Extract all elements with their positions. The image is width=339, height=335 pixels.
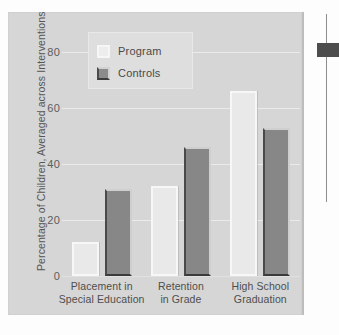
legend-item-controls: Controls (97, 62, 184, 84)
bar-program-0 (72, 242, 99, 276)
bar-controls-1 (184, 147, 211, 276)
category-label-line: High School (213, 280, 308, 293)
legend-item-program: Program (97, 40, 184, 62)
gridline-60 (62, 108, 300, 109)
legend-label-program: Program (118, 45, 162, 57)
x-axis-category-labels: Placement inSpecial EducationRetentionin… (62, 280, 300, 314)
panel-edge-shadow (302, 12, 304, 315)
legend-swatch-controls-icon (97, 67, 110, 80)
category-label-line: Graduation (213, 293, 308, 306)
margin-marker-icon (317, 43, 339, 57)
legend-swatch-program-icon (97, 45, 110, 58)
chart-panel: Percentage of Children, Averaged across … (8, 12, 302, 315)
chart-legend: Program Controls (88, 32, 193, 89)
category-label-2: High SchoolGraduation (213, 280, 308, 306)
bar-program-2 (230, 91, 257, 276)
gridline-0 (62, 276, 300, 277)
chart-panel-inner: Percentage of Children, Averaged across … (8, 12, 302, 315)
bar-program-1 (151, 186, 178, 276)
bar-controls-2 (263, 128, 290, 276)
chart-page: Percentage of Children, Averaged across … (0, 0, 339, 335)
legend-label-controls: Controls (118, 67, 161, 79)
bar-controls-0 (105, 189, 132, 276)
